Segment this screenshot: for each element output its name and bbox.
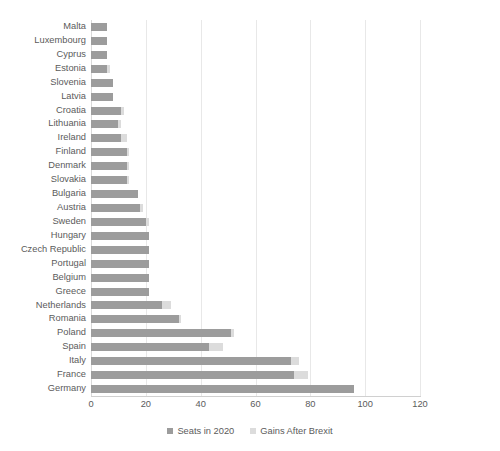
category-label: Greece [0,285,86,299]
bar-row [91,173,420,187]
stacked-bar [91,343,223,351]
bar-segment-gains [121,134,126,142]
category-label: Portugal [0,257,86,271]
category-label: Romania [0,312,86,326]
category-label: Italy [0,354,86,368]
x-tick-label: 0 [71,399,111,409]
stacked-bar [91,357,299,365]
bar-row [91,90,420,104]
legend-label: Gains After Brexit [260,426,332,436]
stacked-bar [91,51,107,59]
bar-row [91,20,420,34]
bar-row [91,34,420,48]
stacked-bar [91,93,113,101]
bar-row [91,299,420,313]
bar-segment-gains [118,120,121,128]
bar-segment-seats [91,120,118,128]
bar-row [91,48,420,62]
bar-row [91,382,420,396]
category-label: Croatia [0,104,86,118]
category-label: Austria [0,201,86,215]
bar-segment-seats [91,343,209,351]
category-label: Netherlands [0,299,86,313]
legend-swatch-icon [250,428,256,434]
bar-segment-gains [162,301,170,309]
x-tick-label: 120 [400,399,440,409]
stacked-bar [91,162,129,170]
stacked-bar [91,371,308,379]
bar-row [91,340,420,354]
bar-segment-seats [91,301,162,309]
stacked-bar [91,246,149,254]
category-label: Hungary [0,229,86,243]
category-label: Slovakia [0,173,86,187]
stacked-bar [91,288,149,296]
legend-item[interactable]: Gains After Brexit [250,426,332,436]
stacked-bar [91,176,129,184]
bar-segment-seats [91,204,140,212]
bar-segment-seats [91,162,127,170]
stacked-bar [91,37,107,45]
bar-segment-seats [91,274,149,282]
category-label: Belgium [0,271,86,285]
bar-row [91,62,420,76]
bar-segment-seats [91,357,291,365]
bar-segment-seats [91,329,231,337]
bar-segment-seats [91,218,146,226]
category-label: Poland [0,326,86,340]
bar-segment-seats [91,232,149,240]
category-label: France [0,368,86,382]
legend-swatch-icon [167,428,173,434]
bar-segment-gains [127,148,130,156]
bar-row [91,312,420,326]
stacked-bar [91,23,107,31]
stacked-bar [91,329,234,337]
stacked-bar [91,315,181,323]
category-label: Finland [0,145,86,159]
bar-segment-seats [91,65,107,73]
bar-segment-gains [179,315,182,323]
category-label: Latvia [0,90,86,104]
bar-row [91,131,420,145]
stacked-bar [91,260,149,268]
x-tick-label: 80 [290,399,330,409]
bar-segment-seats [91,176,127,184]
category-label: Germany [0,382,86,396]
category-label: Ireland [0,131,86,145]
category-label: Czech Republic [0,243,86,257]
stacked-bar [91,204,143,212]
category-label: Luxembourg [0,34,86,48]
x-tick-label: 20 [126,399,166,409]
bar-rows [91,20,420,396]
x-tick-label: 40 [181,399,221,409]
bar-segment-seats [91,93,113,101]
bar-segment-gains [140,204,143,212]
legend-item[interactable]: Seats in 2020 [167,426,234,436]
bar-segment-gains [127,162,130,170]
bar-row [91,243,420,257]
bar-segment-seats [91,190,138,198]
bar-segment-seats [91,51,107,59]
legend-label: Seats in 2020 [177,426,234,436]
stacked-bar [91,190,138,198]
category-label: Cyprus [0,48,86,62]
bar-row [91,229,420,243]
x-tick-label: 60 [236,399,276,409]
bar-segment-gains [121,107,124,115]
plot-area [91,20,420,396]
stacked-bar [91,301,171,309]
bar-segment-gains [146,218,149,226]
bar-segment-seats [91,79,113,87]
x-axis-line [91,396,421,397]
bar-row [91,368,420,382]
stacked-bar [91,120,121,128]
category-axis-labels: MaltaLuxembourgCyprusEstoniaSloveniaLatv… [0,20,86,396]
bar-segment-seats [91,37,107,45]
bar-segment-gains [127,176,130,184]
stacked-bar [91,79,113,87]
bar-row [91,145,420,159]
bar-segment-gains [107,65,110,73]
bar-segment-seats [91,385,354,393]
bar-row [91,104,420,118]
bar-row [91,201,420,215]
